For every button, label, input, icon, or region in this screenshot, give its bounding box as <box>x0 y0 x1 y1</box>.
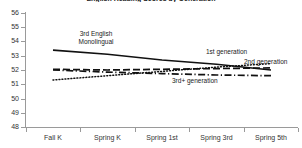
annotation-3rd-english-monolingual-line1: 3rd English <box>58 30 134 38</box>
annotation-1st-generation: 1st generation <box>206 48 247 56</box>
annotation-2nd-generation: 2nd generation <box>244 58 287 66</box>
annotation-3rd-plus-generation: 3rd+ generation <box>172 77 218 85</box>
annotation-3rd-english-monolingual: 3rd English Monolingual <box>58 30 134 45</box>
series-layer <box>0 0 302 148</box>
series-2nd-generation <box>53 68 271 70</box>
annotation-3rd-english-monolingual-line2: Monolingual <box>58 38 134 46</box>
line-chart: English Reading Scores by Generation 56 … <box>0 0 302 148</box>
